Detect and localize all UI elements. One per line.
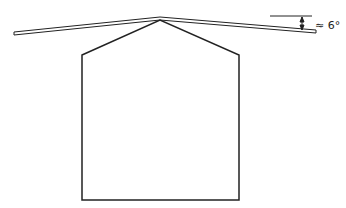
roof-panel-left: [14, 17, 160, 35]
roof-diagram: [0, 0, 346, 208]
angle-label: ≈ 6°: [315, 19, 340, 32]
dimension-arrow: [300, 17, 304, 30]
house-outline: [82, 20, 239, 200]
